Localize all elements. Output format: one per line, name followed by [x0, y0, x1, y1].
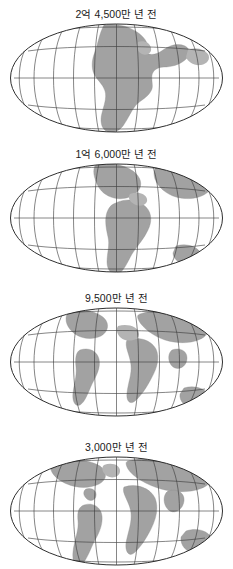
panel-1-map [0, 20, 233, 136]
panel-2-caption: 1억 6,000만 년 전 [0, 148, 233, 160]
map-svg-2 [0, 160, 233, 276]
panel-1-caption: 2억 4,500만 년 전 [0, 8, 233, 20]
landmass-india-3 [169, 349, 187, 368]
scan-artifact-strip [0, 0, 233, 6]
drift-panel-3: 9,500만 년 전 [0, 292, 233, 420]
panel-3-map [0, 304, 233, 420]
drift-panel-1: 2억 4,500만 년 전 [0, 8, 233, 136]
map-svg-1 [0, 20, 233, 136]
drift-panel-4: 3,000만 년 전 [0, 441, 233, 569]
panel-4-map [0, 453, 233, 569]
panel-4-caption: 3,000만 년 전 [0, 441, 233, 453]
panel-3-caption: 9,500만 년 전 [0, 292, 233, 304]
drift-panel-2: 1억 6,000만 년 전 [0, 148, 233, 276]
panel-2-map [0, 160, 233, 276]
map-svg-4 [0, 453, 233, 569]
map-svg-3 [0, 304, 233, 420]
